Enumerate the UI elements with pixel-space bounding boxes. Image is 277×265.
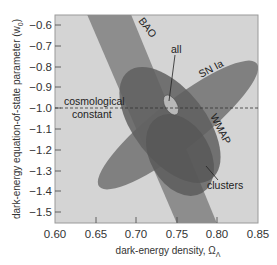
y-tick-label: −1.4 <box>29 185 52 197</box>
y-tick-label: −0.9 <box>29 81 52 93</box>
all-label: all <box>171 43 182 55</box>
x-tick-label: 0.75 <box>166 228 188 240</box>
cosmological-label: cosmological <box>64 95 125 107</box>
x-tick-label: 0.70 <box>125 228 147 240</box>
chart: BAO SN Ia all WMAP clusters cosmological… <box>0 0 277 265</box>
clusters-label: clusters <box>207 179 243 191</box>
y-tick-label: −1.1 <box>29 123 52 135</box>
x-axis-title: dark-energy density, ΩΛ <box>116 245 221 258</box>
y-tick-label: −1.5 <box>29 206 52 218</box>
x-tick-labels: 0.60 0.65 0.70 0.75 0.80 0.85 <box>44 228 269 240</box>
x-tick-label: 0.85 <box>247 228 269 240</box>
x-tick-label: 0.60 <box>44 228 66 240</box>
y-tick-label: −0.8 <box>29 61 52 73</box>
y-axis-title: dark-energy equation-of-state parameter … <box>11 19 24 219</box>
y-tick-label: −1.2 <box>29 144 52 156</box>
x-tick-label: 0.65 <box>85 228 107 240</box>
y-tick-label: −1.3 <box>29 165 52 177</box>
constant-label: constant <box>72 108 112 120</box>
y-tick-label: −0.7 <box>29 40 52 52</box>
y-tick-labels: −0.6 −0.7 −0.8 −0.9 −1.0 −1.1 −1.2 −1.3 … <box>29 19 52 218</box>
y-tick-label: −1.0 <box>29 102 52 114</box>
x-tick-label: 0.80 <box>206 228 228 240</box>
y-tick-label: −0.6 <box>29 19 52 31</box>
